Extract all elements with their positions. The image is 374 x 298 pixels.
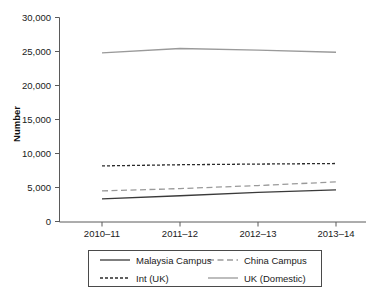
y-axis-title: Number <box>11 106 22 142</box>
y-tick-label-30000: 30,000 <box>22 12 51 23</box>
y-tick-label-5000: 5,000 <box>27 182 51 193</box>
chart-figure: 30,000 25,000 20,000 15,000 10,000 5,000… <box>0 0 374 298</box>
y-tick-label-25000: 25,000 <box>22 46 51 57</box>
y-tick-label-0: 0 <box>46 216 51 227</box>
x-tick-label-2010-11: 2010–11 <box>84 228 120 239</box>
y-tick-label-10000: 10,000 <box>22 148 51 159</box>
x-tick-label-2011-12: 2011–12 <box>162 228 198 239</box>
legend-label-int-uk: Int (UK) <box>136 273 169 284</box>
chart-legend: Malaysia Campus China Campus Int (UK) UK… <box>89 251 322 287</box>
legend-label-china-campus: China Campus <box>244 255 307 266</box>
y-tick-label-15000: 15,000 <box>22 114 51 125</box>
x-tick-label-2013-14: 2013–14 <box>318 228 355 239</box>
legend-label-uk-domestic: UK (Domestic) <box>244 273 306 284</box>
line-chart-svg: 30,000 25,000 20,000 15,000 10,000 5,000… <box>0 0 374 298</box>
x-tick-label-2012-13: 2012–13 <box>240 228 277 239</box>
legend-label-malaysia-campus: Malaysia Campus <box>136 255 212 266</box>
y-tick-label-20000: 20,000 <box>22 80 51 91</box>
